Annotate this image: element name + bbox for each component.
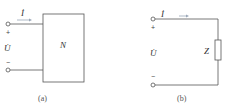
bottom-terminal-a xyxy=(6,68,10,72)
current-arrow-icon-a xyxy=(17,19,32,22)
diagram-b: İ + U̇ − Z (b) xyxy=(150,9,221,103)
voltage-label-b: U̇ xyxy=(150,48,157,58)
voltage-label-a: U̇ xyxy=(4,43,11,53)
minus-sign-b: − xyxy=(151,73,155,80)
caption-a: (a) xyxy=(38,94,47,103)
top-wire-b xyxy=(155,19,218,40)
plus-sign-a: + xyxy=(6,29,10,36)
caption-b: (b) xyxy=(177,94,187,103)
diagram-a: İ + U̇ − N (a) xyxy=(4,8,84,103)
minus-sign-a: − xyxy=(6,59,10,66)
top-terminal-a xyxy=(6,22,10,26)
bottom-wire-b xyxy=(155,60,218,85)
current-arrow-icon-b xyxy=(179,15,189,18)
current-label-b: İ xyxy=(160,9,165,19)
top-terminal-b xyxy=(151,17,155,21)
bottom-terminal-b xyxy=(151,83,155,87)
plus-sign-b: + xyxy=(151,24,155,31)
impedance-label: Z xyxy=(204,46,210,56)
impedance-box xyxy=(215,40,221,60)
circuit-figure: İ + U̇ − N (a) İ + U̇ − Z (b) xyxy=(0,0,225,107)
network-label: N xyxy=(59,40,67,50)
current-label-a: İ xyxy=(20,8,25,18)
